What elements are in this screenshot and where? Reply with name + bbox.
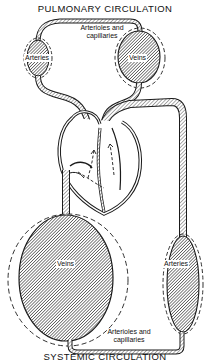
systemic-arteries xyxy=(163,234,203,334)
heart xyxy=(59,112,140,214)
systemic-arteries-label: Arteries xyxy=(163,260,189,268)
pulmonary-arteries-label: Arteries xyxy=(24,54,50,62)
pulmonary-capillaries-label: Arterioles and capillaries xyxy=(68,24,136,39)
pulmonary-circulation-title: PULMONARY CIRCULATION xyxy=(0,3,210,14)
pulmonary-veins-label: Veins xyxy=(128,54,147,62)
systemic-circulation-title: SYSTEMIC CIRCULATION xyxy=(0,351,210,362)
systemic-veins-label: Veins xyxy=(56,260,75,268)
systemic-veins xyxy=(8,214,128,346)
systemic-capillaries-label: Arterioles and capillaries xyxy=(94,328,164,343)
